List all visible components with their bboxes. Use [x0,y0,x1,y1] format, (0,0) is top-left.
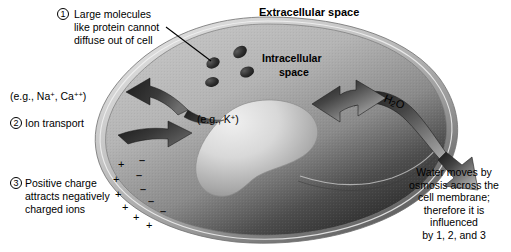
extracellular-space-label: Extracellular space [259,6,359,19]
ion-influx-label: (e.g., K+) [197,112,239,125]
positive-charge-symbol: + [146,220,152,231]
callout-1-line-2: like protein cannot [74,21,159,34]
water-note-line-3: cell membrane; [418,191,490,203]
intracellular-space-label-line1: Intracellular [262,52,322,65]
ion-efflux-label: (e.g., Na+, Ca++) [10,89,86,102]
callout-3-line-2: attracts negatively [25,190,110,203]
callout-2-line-1: Ion transport [25,117,84,130]
water-note-line-4: therefore it is [424,204,485,216]
water-note-line-5: influenced [430,216,478,228]
water-note: Water moves by osmosis across the cell m… [400,166,508,242]
callout-3-line-1: Positive charge [25,177,97,190]
callout-number-1: 1 [57,8,69,20]
water-note-line-2: osmosis across the [409,179,499,191]
positive-charge-symbol: + [133,212,139,223]
positive-charge-symbol: + [113,174,119,185]
callout-1-line-3: diffuse out of cell [74,34,153,47]
water-note-line-1: Water moves by [416,166,491,178]
callout-number-3: 3 [10,177,22,189]
callout-number-2: 2 [10,117,22,129]
positive-charge-symbol: + [115,189,121,200]
negative-charge-symbol: – [140,184,146,195]
water-note-line-6: by 1, 2, and 3 [422,229,486,241]
negative-charge-symbol: – [160,206,166,217]
positive-charge-symbol: + [118,159,124,170]
callout-3-line-3: charged ions [25,203,85,216]
cell-transport-diagram: 1 Large molecules like protein cannot di… [0,0,511,252]
negative-charge-symbol: – [148,196,154,207]
negative-charge-symbol: – [139,155,145,166]
positive-charge-symbol: + [122,202,128,213]
negative-charge-symbol: – [136,170,142,181]
callout-1-line-1: Large molecules [74,8,151,21]
intracellular-space-label-line2: space [279,66,309,79]
